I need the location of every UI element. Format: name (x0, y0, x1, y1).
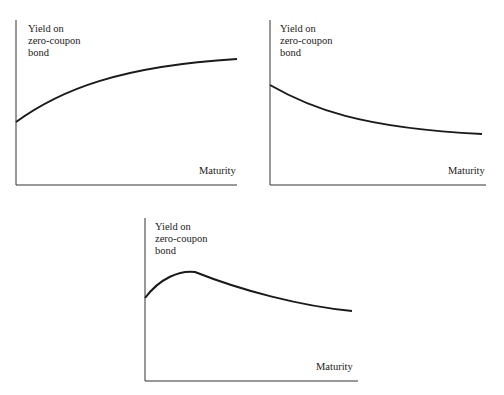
ylabel-line: Yield on (155, 221, 207, 233)
ylabel-line: zero-coupon (280, 35, 332, 47)
ylabel-line: zero-coupon (28, 35, 80, 47)
ylabel-line: Yield on (280, 23, 332, 35)
ylabel-line: Yield on (28, 23, 80, 35)
x-axis-label-2: Maturity (448, 165, 485, 177)
ylabel-line: zero-coupon (155, 233, 207, 245)
ylabel-line: bond (155, 245, 207, 257)
y-axis-label-3: Yield on zero-coupon bond (155, 221, 207, 257)
ylabel-line: bond (28, 47, 80, 59)
ylabel-line: bond (280, 47, 332, 59)
y-axis-label-2: Yield on zero-coupon bond (280, 23, 332, 59)
x-axis-label-1: Maturity (199, 165, 236, 177)
yield-curve (16, 59, 237, 122)
yield-curves-diagram (0, 0, 504, 395)
x-axis-label-3: Maturity (316, 361, 353, 373)
y-axis-label-1: Yield on zero-coupon bond (28, 23, 80, 59)
yield-curve (270, 85, 482, 134)
yield-curve (145, 272, 352, 311)
